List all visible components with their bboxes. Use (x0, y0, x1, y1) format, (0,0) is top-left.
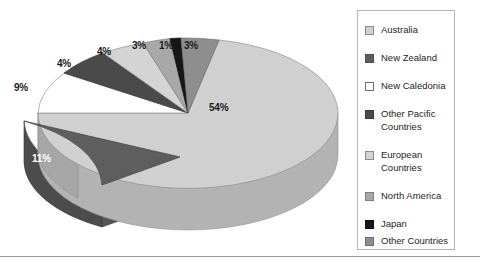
legend-swatch-japan (365, 220, 374, 229)
data-label-european: 4% (97, 46, 111, 57)
legend-item-other-countries[interactable]: Other Countries (365, 235, 448, 248)
data-label-north-america: 3% (132, 40, 146, 51)
data-label-australia: 54% (209, 102, 228, 113)
legend-item-other-pacific[interactable]: Other Pacific Countries (365, 108, 454, 133)
legend-item-european[interactable]: European Countries (365, 149, 454, 174)
legend-item-new-zealand[interactable]: New Zealand (365, 52, 437, 65)
legend-item-japan[interactable]: Japan (365, 218, 407, 231)
legend-label-other-countries: Other Countries (381, 235, 448, 248)
page-divider-rule (0, 256, 480, 257)
legend-label-other-pacific: Other Pacific Countries (381, 108, 454, 133)
legend-swatch-new-zealand (365, 54, 374, 63)
legend-label-european: European Countries (381, 149, 454, 174)
legend-swatch-australia (365, 26, 374, 35)
legend-swatch-new-caledonia (365, 82, 374, 91)
legend-label-japan: Japan (381, 218, 407, 231)
legend-label-north-america: North America (381, 190, 441, 203)
legend-swatch-north-america (365, 192, 374, 201)
pie-chart-figure: 54% 11% 9% 4% 4% 3% 1% 3% Australia New … (0, 0, 480, 264)
data-label-other-countries: 3% (184, 40, 198, 51)
legend-label-australia: Australia (381, 24, 418, 37)
data-label-new-caledonia: 9% (14, 82, 28, 93)
legend-item-australia[interactable]: Australia (365, 24, 418, 37)
data-label-new-zealand: 11% (32, 153, 51, 164)
legend-label-new-caledonia: New Caledonia (381, 80, 445, 93)
legend-swatch-other-pacific (365, 110, 374, 119)
data-label-japan: 1% (159, 40, 173, 51)
legend-swatch-european (365, 151, 374, 160)
data-label-other-pacific: 4% (57, 58, 71, 69)
legend-swatch-other-countries (365, 237, 374, 246)
legend-item-north-america[interactable]: North America (365, 190, 441, 203)
legend-label-new-zealand: New Zealand (381, 52, 437, 65)
legend-item-new-caledonia[interactable]: New Caledonia (365, 80, 445, 93)
chart-legend: Australia New Zealand New Caledonia Othe… (357, 10, 455, 250)
